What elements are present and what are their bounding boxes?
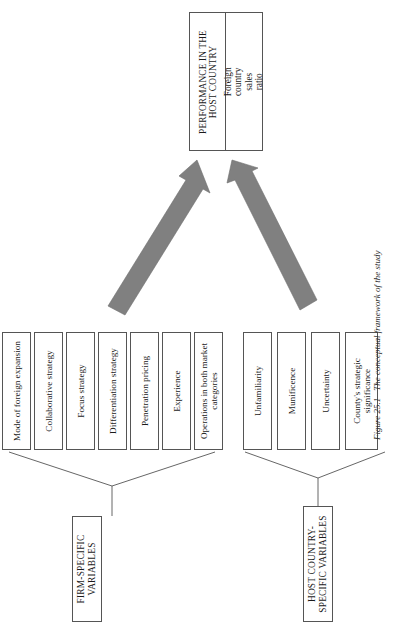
- variable-box-firm-2: Collaborative strategy: [34, 332, 63, 450]
- firm-group-bracket: [9, 452, 215, 516]
- outcome-measure-cell: Foreign country sales ratio: [226, 13, 262, 150]
- outcome-title: PERFORMANCE IN THE HOST COUNTRY: [197, 17, 218, 146]
- outcome-title-cell: PERFORMANCE IN THE HOST COUNTRY: [190, 13, 226, 150]
- host-group-bracket: [245, 452, 385, 506]
- variable-label: Differentiation strategy: [107, 337, 117, 445]
- variable-label: Penetration pricing: [139, 337, 149, 445]
- group-box-host: HOST COUNTRY-SPECIFIC VARIABLES: [303, 506, 333, 622]
- variable-box-host-2: Munificence: [277, 332, 306, 450]
- variable-box-firm-3: Focus strategy: [66, 332, 95, 450]
- variable-box-host-1: Unfamiliarity: [243, 332, 272, 450]
- arrow-host-to-outcome: [227, 160, 317, 310]
- variable-box-firm-5: Penetration pricing: [130, 332, 159, 450]
- outcome-measure: Foreign country sales ratio: [223, 64, 265, 100]
- figure-canvas: PERFORMANCE IN THE HOST COUNTRY Foreign …: [0, 0, 393, 641]
- figure-caption: Figure 25.1 The conceptual framework of …: [368, 240, 386, 440]
- figure-caption-number: Figure 25.1: [372, 398, 382, 440]
- variable-label: Uncertainty: [320, 337, 330, 445]
- variable-label: Operations in both market categories: [198, 337, 219, 445]
- outcome-box: PERFORMANCE IN THE HOST COUNTRY Foreign …: [189, 12, 263, 151]
- variable-box-firm-6: Experience: [162, 332, 191, 450]
- variable-label: Mode of foreign expansion: [11, 337, 21, 445]
- variable-box-firm-7: Operations in both market categories: [194, 332, 223, 450]
- variable-label: Experience: [171, 337, 181, 445]
- variable-label: Focus strategy: [75, 337, 85, 445]
- variable-label: Unfamiliarity: [252, 337, 262, 445]
- figure-caption-text: The conceptual framework of the study: [372, 251, 382, 391]
- variable-box-firm-1: Mode of foreign expansion: [2, 332, 31, 450]
- variable-label: Collaborative strategy: [43, 337, 53, 445]
- variable-box-host-3: Uncertainty: [311, 332, 340, 450]
- group-label: HOST COUNTRY-SPECIFIC VARIABLES: [307, 511, 328, 617]
- group-label: FIRM-SPECIFIC VARIABLES: [76, 521, 97, 617]
- variable-box-firm-4: Differentiation strategy: [98, 332, 127, 450]
- group-box-firm: FIRM-SPECIFIC VARIABLES: [72, 516, 102, 622]
- arrow-firm-to-outcome: [108, 160, 210, 315]
- variable-label: Munificence: [286, 337, 296, 445]
